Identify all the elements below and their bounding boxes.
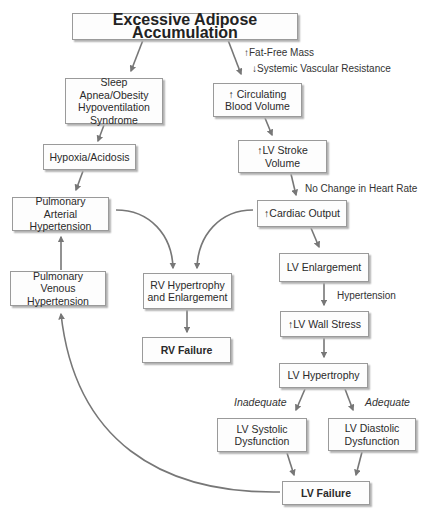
node-lv-diastolic-dysfunction: LV Diastolic Dysfunction — [328, 418, 416, 451]
label-no-change-heart-rate: No Change in Heart Rate — [305, 183, 417, 194]
node-pulmonary-venous-hypertension: Pulmonary Venous Hypertension — [10, 271, 106, 306]
node-hypoxia-acidosis: Hypoxia/Acidosis — [43, 144, 136, 170]
node-excessive-adipose: Excessive Adipose Accumulation — [72, 13, 298, 40]
node-lv-enlargement: LV Enlargement — [279, 253, 369, 282]
node-lv-failure: LV Failure — [282, 481, 370, 505]
label-systemic-vascular-resistance: ↓Systemic Vascular Resistance — [252, 63, 391, 74]
node-circulating-blood-volume: ↑ Circulating Blood Volume — [213, 83, 302, 117]
node-rv-failure: RV Failure — [142, 337, 231, 363]
node-lv-hypertrophy: LV Hypertrophy — [279, 363, 368, 388]
label-hypertension: Hypertension — [337, 290, 396, 301]
node-lv-wall-stress: ↑LV Wall Stress — [280, 311, 369, 337]
label-adequate: Adequate — [365, 396, 410, 408]
node-pulmonary-arterial-hypertension: Pulmonary Arterial Hypertension — [12, 197, 109, 231]
label-inadequate: Inadequate — [234, 396, 287, 408]
label-fat-free-mass: ↑Fat-Free Mass — [244, 47, 314, 58]
node-lv-stroke-volume: ↑LV Stroke Volume — [238, 140, 327, 173]
node-lv-systolic-dysfunction: LV Systolic Dysfunction — [217, 418, 307, 452]
node-rv-hypertrophy: RV Hypertrophy and Enlargement — [143, 273, 232, 309]
node-sleep-apnea: Sleep Apnea/Obesity Hypoventilation Synd… — [65, 78, 163, 124]
node-cardiac-output: ↑Cardiac Output — [257, 200, 347, 227]
